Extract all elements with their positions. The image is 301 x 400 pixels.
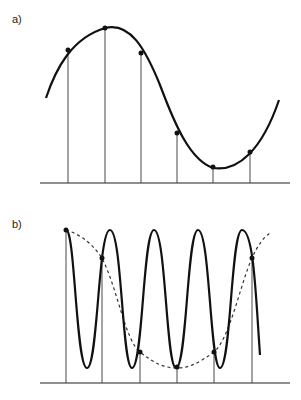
panel-b [40, 228, 290, 384]
panel-b-high-frequency-curve [66, 230, 260, 368]
panel-b-aliased-dashed-curve [66, 230, 270, 368]
panel-a-sine-curve [46, 27, 279, 168]
panel-a [40, 26, 290, 184]
sampling-diagram [0, 0, 301, 400]
panel-a-sample-lines [68, 28, 250, 183]
panel-a-sample-dots [66, 26, 253, 170]
